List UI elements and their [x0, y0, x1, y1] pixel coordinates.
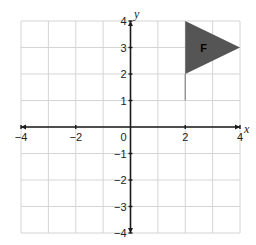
coordinate-plane: −4−2024 4321−1−2−3−4 x y F: [0, 0, 256, 245]
y-tick-label: 3: [120, 42, 126, 54]
x-axis-label: x: [243, 122, 250, 136]
x-tick-label: 2: [182, 131, 188, 143]
x-arrow-right-icon: [235, 125, 240, 130]
x-tick-label: 4: [237, 131, 243, 143]
flag-label: F: [200, 42, 207, 54]
x-tick-label: −2: [69, 131, 82, 143]
y-tick-label: −4: [114, 227, 127, 239]
y-axis-label: y: [133, 7, 140, 21]
y-tick-label: −2: [114, 174, 127, 186]
y-tick-label: 1: [120, 95, 126, 107]
x-tick-label: 0: [120, 131, 126, 143]
y-tick-label: −1: [114, 148, 127, 160]
x-arrow-left-icon: [21, 125, 26, 130]
x-tick-labels: −4−2024: [15, 131, 243, 143]
y-tick-label: −3: [114, 201, 127, 213]
y-tick-label: 4: [120, 15, 126, 27]
y-tick-label: 2: [120, 68, 126, 80]
y-arrow-down-icon: [128, 228, 133, 233]
x-tick-label: −4: [15, 131, 28, 143]
y-arrow-up-icon: [128, 21, 133, 26]
